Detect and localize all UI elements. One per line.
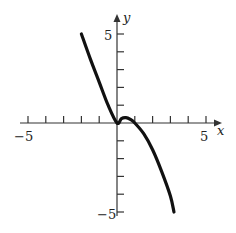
x-max-label: 5 — [200, 129, 208, 144]
axes — [20, 14, 222, 216]
x-axis-label: x — [217, 123, 225, 138]
y-axis-label: y — [122, 10, 131, 25]
y-max-label: 5 — [104, 28, 112, 43]
y-min-label: −5 — [97, 207, 116, 222]
function-graph: −5 5 x 5 −5 y — [0, 0, 236, 233]
x-min-label: −5 — [14, 129, 33, 144]
y-axis-arrow-icon — [114, 14, 121, 22]
